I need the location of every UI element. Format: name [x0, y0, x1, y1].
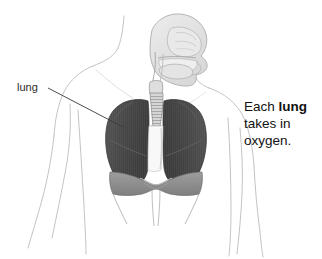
trachea-tube: [150, 93, 163, 126]
caption-line-2: takes in: [244, 115, 320, 132]
heart-mediastinum: [148, 126, 163, 172]
lung-diagram-figure: lung Each lung takes in oxygen.: [0, 0, 322, 259]
caption-keyword-lung: lung: [279, 99, 308, 114]
caption-line-1: Each lung: [244, 98, 320, 115]
caption-block: Each lung takes in oxygen.: [244, 98, 320, 149]
diaphragm-dome: [110, 172, 203, 196]
caption-line-1-prefix: Each: [244, 99, 279, 114]
lung-label: lung: [17, 82, 38, 93]
caption-line-3: oxygen.: [244, 132, 320, 149]
diaphragm: [110, 172, 203, 226]
leader-line: [48, 88, 123, 127]
head-profile: [149, 14, 207, 96]
